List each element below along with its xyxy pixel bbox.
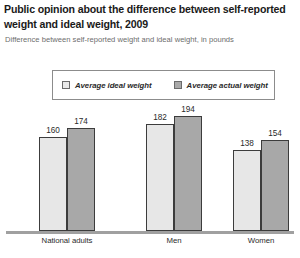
bar-value-label: 174: [67, 117, 95, 126]
legend-swatch-icon-ideal: [62, 81, 70, 89]
chart-figure: Public opinion about the difference betw…: [0, 0, 300, 258]
chart-legend: Average ideal weight Average actual weig…: [52, 70, 275, 100]
page-title: Public opinion about the difference betw…: [4, 2, 294, 31]
legend-item-actual-weight: Average actual weight: [174, 81, 268, 90]
legend-label-actual: Average actual weight: [187, 81, 268, 90]
bar-value-label: 138: [233, 139, 261, 148]
bar-value-label: 160: [39, 126, 67, 135]
bar: 174: [67, 128, 95, 231]
bar-actual-weight: [261, 140, 289, 231]
bar-ideal-weight: [146, 124, 174, 231]
x-axis-label: National adults: [9, 236, 125, 245]
bar-actual-weight: [174, 116, 202, 231]
bar-value-label: 154: [261, 129, 289, 138]
bar-groups: 160174182194138154: [0, 108, 300, 232]
bar-value-label: 182: [146, 113, 174, 122]
bar-group: 182194: [146, 107, 202, 231]
bar-value-label: 194: [174, 105, 202, 114]
bar-ideal-weight: [39, 137, 67, 231]
bar-ideal-weight: [233, 150, 261, 231]
chart-subtitle: Difference between self-reported weight …: [5, 35, 297, 45]
bar: 194: [174, 116, 202, 231]
x-axis-label: Women: [203, 236, 300, 245]
legend-label-ideal: Average ideal weight: [75, 81, 152, 90]
bar-actual-weight: [67, 128, 95, 231]
bar: 182: [146, 124, 174, 231]
bar: 160: [39, 137, 67, 231]
bar-group: 138154: [233, 107, 289, 231]
bar: 154: [261, 140, 289, 231]
bar: 138: [233, 150, 261, 231]
legend-item-ideal-weight: Average ideal weight: [62, 81, 152, 90]
legend-swatch-icon-actual: [174, 81, 182, 89]
x-axis-labels: National adultsMenWomen: [0, 236, 300, 252]
plot-area: 160174182194138154: [0, 108, 300, 234]
bar-group: 160174: [39, 107, 95, 231]
